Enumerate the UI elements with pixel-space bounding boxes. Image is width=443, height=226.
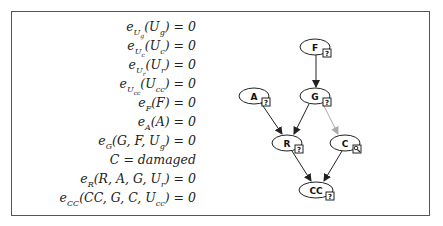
magnifier-icon <box>353 145 361 153</box>
svg-text:?: ? <box>328 193 332 201</box>
edge-a-r <box>261 103 282 134</box>
edge-r-cc <box>292 151 311 181</box>
svg-text:A: A <box>251 92 258 102</box>
svg-text:?: ? <box>264 99 268 107</box>
svg-text:?: ? <box>325 99 329 107</box>
node-g[interactable]: G ? <box>300 88 331 107</box>
node-c[interactable]: C <box>330 135 361 153</box>
causal-graph: F ? A ? G ? R ? C CC ? <box>0 0 443 226</box>
svg-text:CC: CC <box>309 186 323 196</box>
node-a[interactable]: A ? <box>239 88 270 107</box>
edge-c-cc <box>324 151 342 181</box>
svg-text:F: F <box>312 43 318 53</box>
node-cc[interactable]: CC ? <box>299 182 334 201</box>
edge-g-c <box>323 104 338 134</box>
svg-text:G: G <box>311 92 318 102</box>
svg-text:C: C <box>342 139 349 149</box>
node-r[interactable]: R ? <box>272 135 303 154</box>
svg-text:?: ? <box>325 50 329 58</box>
svg-text:R: R <box>284 139 291 149</box>
edge-g-r <box>294 104 309 134</box>
node-f[interactable]: F ? <box>300 39 331 58</box>
svg-text:?: ? <box>297 146 301 154</box>
